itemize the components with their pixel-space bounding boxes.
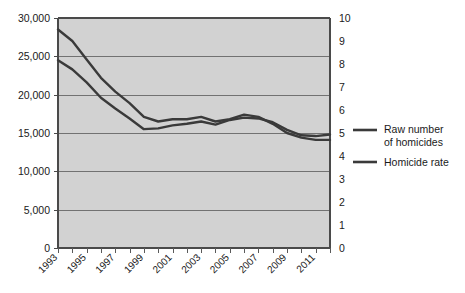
legend-label-homicide-rate: Homicide rate xyxy=(384,156,449,168)
left-axis-tick-label: 10,000 xyxy=(18,165,50,177)
right-axis-tick-label: 9 xyxy=(339,35,345,47)
right-axis-tick-label: 2 xyxy=(339,196,345,208)
left-axis-tick-label: 30,000 xyxy=(18,12,50,24)
right-axis-tick-label: 4 xyxy=(339,150,345,162)
right-axis-tick-label: 7 xyxy=(339,81,345,93)
left-axis-tick-label: 15,000 xyxy=(18,127,50,139)
right-axis-tick-label: 3 xyxy=(339,173,345,185)
right-axis-tick-label: 1 xyxy=(339,219,345,231)
left-axis-tick-label: 0 xyxy=(44,242,50,254)
homicide-chart-figure: 05,00010,00015,00020,00025,00030,000 012… xyxy=(0,0,465,293)
right-axis-tick-label: 0 xyxy=(339,242,345,254)
right-axis-tick-label: 10 xyxy=(339,12,351,24)
legend-label-raw-number-line1: Raw number xyxy=(384,123,444,135)
right-axis-tick-label: 6 xyxy=(339,104,345,116)
right-axis-tick-label: 8 xyxy=(339,58,345,70)
legend-label-raw-number-line2: of homicides xyxy=(384,136,443,148)
right-axis-tick-label: 5 xyxy=(339,127,345,139)
left-axis-tick-label: 20,000 xyxy=(18,89,50,101)
left-axis-tick-label: 25,000 xyxy=(18,50,50,62)
left-axis-tick-label: 5,000 xyxy=(24,204,50,216)
